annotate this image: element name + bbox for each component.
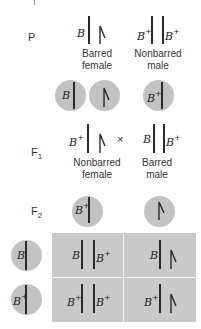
w-chromosome-icon: [97, 132, 107, 153]
z-chromosome: [93, 284, 95, 313]
allele-b-plus: B+: [147, 90, 162, 104]
z-chromosome: [25, 285, 27, 314]
z-chromosome: [73, 82, 75, 109]
z-chromosome: [93, 240, 95, 269]
z-chromosome: [159, 240, 161, 269]
allele-b-plus: B+: [165, 28, 180, 42]
w-chromosome-icon: [156, 200, 166, 220]
allele-b: B: [143, 134, 151, 145]
z-chromosome: [161, 82, 163, 109]
f1-male-caption: Barred male: [122, 157, 192, 181]
allele-b-plus: B+: [144, 294, 159, 308]
allele-b: B: [150, 250, 158, 261]
z-chromosome: [163, 124, 165, 153]
gamete-female-w: [89, 80, 120, 111]
gamete-male-b-plus: B+: [143, 80, 174, 111]
allele-b-plus: B+: [96, 294, 111, 308]
allele-b: B: [17, 250, 25, 261]
w-chromosome-icon: [97, 24, 107, 44]
grid-divider-horizontal: [52, 277, 196, 278]
w-chromosome-icon: [168, 248, 178, 269]
gamete-female-b: B: [55, 80, 86, 111]
allele-b: B: [62, 90, 70, 101]
allele-b-plus: B+: [96, 250, 111, 264]
allele-b-plus: B+: [166, 134, 181, 148]
allele-b-plus: B+: [137, 28, 152, 42]
allele-b: B: [77, 28, 85, 39]
cropped-line-artifact: [34, 0, 35, 5]
w-chromosome-icon: [101, 86, 111, 107]
z-chromosome: [153, 124, 155, 153]
generation-label-p: P: [28, 31, 35, 43]
z-chromosome: [88, 16, 90, 44]
column-gamete-w: [144, 196, 175, 227]
allele-b-plus: B+: [67, 294, 82, 308]
cross-symbol: ×: [117, 133, 123, 145]
z-chromosome: [162, 16, 164, 44]
p-male-caption: Nonbarred male: [123, 48, 193, 72]
allele-b-plus: B+: [69, 134, 84, 148]
z-chromosome: [87, 124, 89, 153]
z-chromosome: [81, 240, 83, 269]
generation-label-f1: F1: [31, 146, 42, 161]
row-gamete-b: B: [11, 240, 42, 271]
generation-label-f2: F2: [31, 205, 42, 220]
punnett-square: B B+ B B+ B+ B+: [52, 233, 196, 322]
p-female-caption: Barred female: [62, 48, 132, 72]
z-chromosome: [159, 284, 161, 313]
allele-b: B: [72, 250, 80, 261]
column-gamete-b-plus: B+: [72, 196, 103, 227]
row-gamete-b-plus: B+: [11, 284, 42, 315]
z-chromosome: [81, 284, 83, 313]
z-chromosome: [88, 197, 90, 223]
z-chromosome: [25, 241, 27, 270]
w-chromosome-icon: [168, 292, 178, 313]
z-chromosome: [151, 16, 153, 44]
